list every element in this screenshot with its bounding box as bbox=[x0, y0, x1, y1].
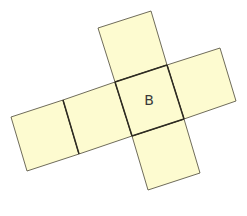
cube-net-diagram: B bbox=[0, 0, 247, 216]
face-label-center: B bbox=[144, 92, 154, 108]
